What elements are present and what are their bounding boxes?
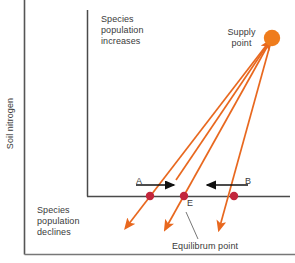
point-label-e: E	[187, 198, 193, 208]
point-label-b: B	[245, 176, 251, 186]
point-label-a: A	[136, 176, 142, 186]
resource-supply-point-diagram: Soil nitrogen Species population increas…	[0, 0, 295, 263]
trajectory-b	[220, 38, 272, 226]
y-axis-label: Soil nitrogen	[5, 89, 16, 159]
annotation-equilibrium-point: Equilibrum point	[172, 241, 238, 252]
annotation-supply-point: Supply point	[219, 27, 264, 49]
marker-point-a	[146, 192, 154, 200]
equilibrium-leader-line	[186, 212, 198, 239]
annotation-population-increases: Species population increases	[101, 14, 144, 47]
marker-point-b	[230, 192, 238, 200]
annotation-population-declines: Species population declines	[37, 205, 80, 238]
marker-supply-point	[264, 30, 280, 46]
trajectory-inbound	[176, 44, 268, 180]
